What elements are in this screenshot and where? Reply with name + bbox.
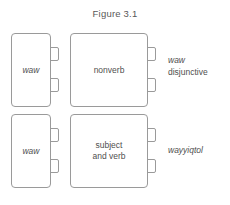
connector-tab-bottom [147,78,156,92]
annotation-line-1: wayyiqtol [168,145,230,157]
connector-tab-top [50,128,59,142]
node-box-nonverb: nonverb [70,33,148,107]
node-label-line-1: subject [96,140,123,150]
connector-tab-bottom [147,159,156,173]
node-box-waw-bottom: waw [11,114,51,188]
node-label-subject-and-verb: subject and verb [89,140,128,162]
annotation-waw-disjunctive: waw disjunctive [168,55,230,78]
annotation-wayyiqtol: wayyiqtol [168,145,230,157]
node-box-waw-top: waw [11,33,51,107]
figure-diagram: Figure 3.1 waw nonverb waw disjunctive w… [0,0,230,205]
node-box-subject-and-verb: subject and verb [70,114,148,188]
node-label-waw-bottom: waw [19,146,42,157]
connector-tab-bottom [50,78,59,92]
node-label-waw-top: waw [19,65,42,76]
connector-tab-bottom [50,159,59,173]
connector-tab-top [50,47,59,61]
annotation-line-1: waw [168,55,230,67]
node-subject-and-verb: subject and verb [70,114,148,188]
connector-tab-top [147,128,156,142]
node-label-nonverb: nonverb [91,65,128,76]
node-nonverb: nonverb [70,33,148,107]
figure-title: Figure 3.1 [0,8,230,19]
node-waw-top: waw [11,33,51,107]
node-label-line-2: and verb [92,151,125,161]
annotation-line-2: disjunctive [168,67,230,79]
connector-tab-top [147,47,156,61]
node-waw-bottom: waw [11,114,51,188]
